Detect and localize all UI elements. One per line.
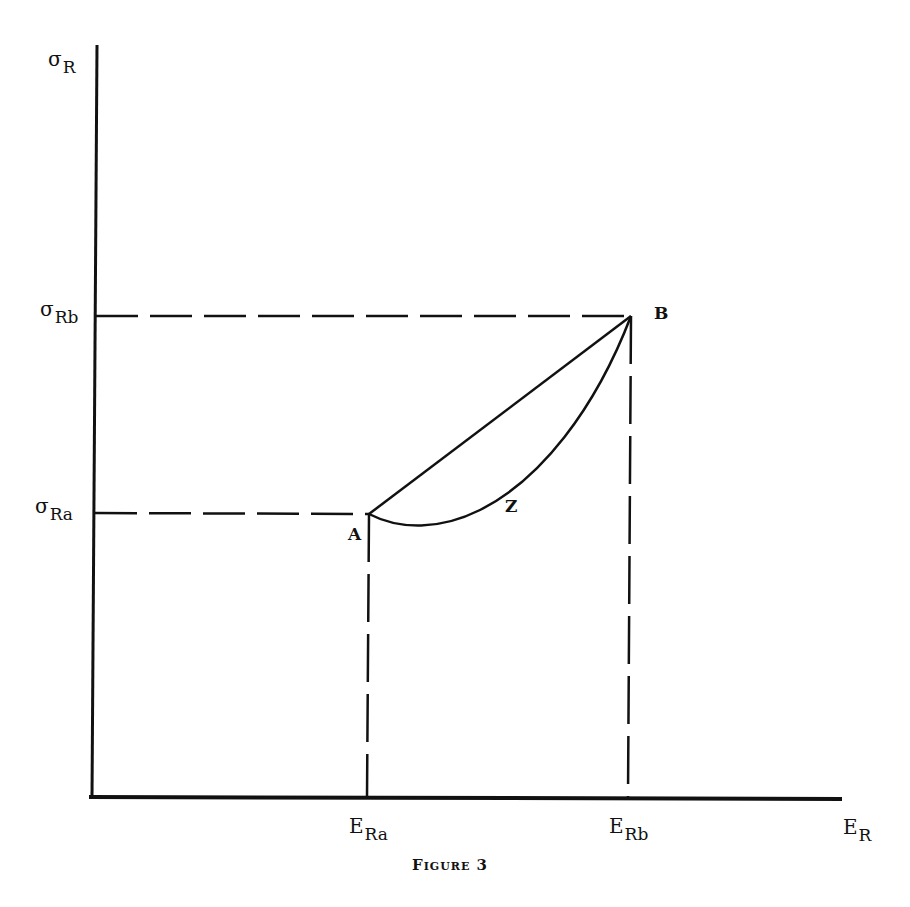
y-axis — [92, 45, 97, 797]
x-tick-e-rb: ERb — [609, 816, 648, 843]
point-a-label: A — [348, 526, 361, 543]
e-ra-dashed-line — [367, 514, 369, 797]
e-rb-dashed-line — [628, 316, 631, 797]
y-axis-label: σR — [48, 49, 75, 76]
x-axis — [89, 797, 842, 799]
point-b-label: B — [654, 305, 668, 322]
curve-z — [369, 316, 631, 526]
x-tick-e-ra: ERa — [349, 816, 388, 843]
x-axis-label: ER — [843, 817, 871, 844]
figure-caption: Figure 3 — [0, 856, 900, 874]
figure-canvas — [0, 0, 910, 907]
y-tick-sigma-ra: σRa — [35, 496, 73, 523]
line-ab — [369, 316, 631, 514]
y-tick-sigma-rb: σRb — [40, 299, 78, 326]
sigma-ra-dashed-line — [95, 513, 369, 514]
curve-z-label: Z — [505, 498, 517, 515]
